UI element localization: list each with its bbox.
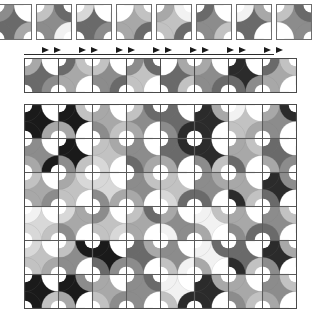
grid-tile-r3-c1: [25, 173, 58, 206]
grid-tile-r3-c3: [93, 173, 126, 206]
strip-tile-2: [59, 59, 92, 92]
grid-tile-r6-c6: [195, 275, 228, 308]
arrow-pair-5: [190, 46, 216, 54]
right-triangle-icon: [202, 47, 209, 53]
grid-tile-r3-c5: [161, 173, 194, 206]
grid-tile-r2-c3: [93, 139, 126, 172]
strip-tile-6: [195, 59, 228, 92]
sample-tile-8: [276, 4, 312, 40]
grid-tile-r2-c5: [161, 139, 194, 172]
strip-tile-4: [127, 59, 160, 92]
right-triangle-icon: [54, 47, 61, 53]
grid-tile-r5-c5: [161, 241, 194, 274]
tile-strip-row: [24, 58, 297, 93]
grid-tile-r4-c5: [161, 207, 194, 240]
grid-tile-r2-c1: [25, 139, 58, 172]
right-triangle-icon: [116, 47, 123, 53]
grid-tile-r4-c8: [263, 207, 296, 240]
grid-tile-r4-c6: [195, 207, 228, 240]
grid-tile-r3-c7: [229, 173, 262, 206]
grid-tile-r1-c6: [195, 105, 228, 138]
sample-tile-5: [156, 4, 192, 40]
arrow-pair-7: [264, 46, 290, 54]
grid-tile-r6-c5: [161, 275, 194, 308]
sample-tile-2: [36, 4, 72, 40]
main-tiling-grid: [24, 104, 297, 309]
grid-tile-r2-c2: [59, 139, 92, 172]
right-triangle-icon: [128, 47, 135, 53]
grid-tile-r6-c4: [127, 275, 160, 308]
right-triangle-icon: [79, 47, 86, 53]
grid-tile-r3-c2: [59, 173, 92, 206]
strip-tile-8: [263, 59, 296, 92]
grid-tile-r3-c8: [263, 173, 296, 206]
grid-tile-r2-c6: [195, 139, 228, 172]
grid-tile-r1-c8: [263, 105, 296, 138]
grid-tile-r4-c1: [25, 207, 58, 240]
strip-tile-3: [93, 59, 126, 92]
strip-tile-1: [25, 59, 58, 92]
right-triangle-icon: [153, 47, 160, 53]
grid-tile-r2-c4: [127, 139, 160, 172]
right-triangle-icon: [264, 47, 271, 53]
grid-tile-r3-c4: [127, 173, 160, 206]
grid-tile-r5-c6: [195, 241, 228, 274]
right-triangle-icon: [165, 47, 172, 53]
arrow-pair-2: [79, 46, 105, 54]
sample-tile-4: [116, 4, 152, 40]
grid-tile-r1-c3: [93, 105, 126, 138]
grid-tile-r4-c7: [229, 207, 262, 240]
grid-tile-r4-c4: [127, 207, 160, 240]
sample-tile-6: [196, 4, 232, 40]
grid-tile-r5-c1: [25, 241, 58, 274]
grid-tile-r5-c2: [59, 241, 92, 274]
sample-tile-1: [0, 4, 32, 40]
grid-tile-r6-c7: [229, 275, 262, 308]
main-grid-inner: [24, 104, 297, 309]
grid-tile-r4-c3: [93, 207, 126, 240]
grid-tile-r1-c5: [161, 105, 194, 138]
grid-tile-r3-c6: [195, 173, 228, 206]
transition-arrow-row: [0, 44, 322, 56]
grid-tile-r5-c8: [263, 241, 296, 274]
right-triangle-icon: [276, 47, 283, 53]
tile-strip-inner: [24, 58, 297, 93]
sample-tile-7: [236, 4, 272, 40]
grid-tile-r5-c4: [127, 241, 160, 274]
sample-tile-3: [76, 4, 112, 40]
grid-tile-r2-c7: [229, 139, 262, 172]
grid-tile-r6-c1: [25, 275, 58, 308]
strip-tile-5: [161, 59, 194, 92]
right-triangle-icon: [227, 47, 234, 53]
figure-root: [0, 0, 322, 311]
grid-tile-r2-c8: [263, 139, 296, 172]
right-triangle-icon: [91, 47, 98, 53]
baseline-rule: [24, 54, 274, 55]
grid-tile-r5-c3: [93, 241, 126, 274]
grid-tile-r1-c2: [59, 105, 92, 138]
grid-tile-r1-c7: [229, 105, 262, 138]
grid-tile-r6-c2: [59, 275, 92, 308]
grid-tile-r4-c2: [59, 207, 92, 240]
right-triangle-icon: [42, 47, 49, 53]
arrow-pair-1: [42, 46, 68, 54]
grid-tile-r6-c8: [263, 275, 296, 308]
arrow-pair-4: [153, 46, 179, 54]
grid-tile-r1-c4: [127, 105, 160, 138]
strip-tile-7: [229, 59, 262, 92]
right-triangle-icon: [239, 47, 246, 53]
grid-tile-r1-c1: [25, 105, 58, 138]
arrow-pair-3: [116, 46, 142, 54]
grid-tile-r5-c7: [229, 241, 262, 274]
right-triangle-icon: [190, 47, 197, 53]
sample-tile-row: [0, 4, 322, 40]
grid-tile-r6-c3: [93, 275, 126, 308]
arrow-pair-6: [227, 46, 253, 54]
